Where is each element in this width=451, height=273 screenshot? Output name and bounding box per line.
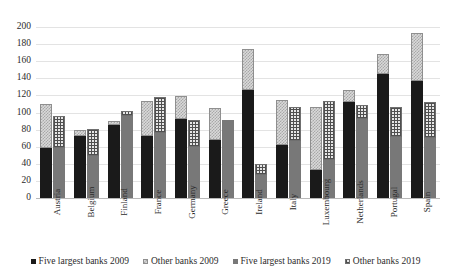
y-axis-labels: 020406080100120140160180200	[0, 27, 31, 198]
legend-label: Five largest banks 2019	[241, 256, 331, 266]
bar-spain-2009	[411, 33, 423, 198]
bar-segment-other-2009	[175, 96, 187, 119]
x-tick-belgium: Belgium	[70, 198, 104, 254]
bar-germany-2009	[175, 96, 187, 198]
y-tick-label: 120	[0, 90, 31, 100]
y-tick-label: 180	[0, 39, 31, 49]
legend-item-2[interactable]: Five largest banks 2019	[233, 256, 331, 266]
bar-france-2009	[141, 101, 153, 198]
bar-group-germany	[171, 27, 205, 198]
legend-item-3[interactable]: Other banks 2019	[345, 256, 421, 266]
bar-segment-other-2019	[390, 107, 402, 138]
bar-segment-five-largest-2009	[310, 170, 322, 198]
bar-chart: 020406080100120140160180200 AustriaBelgi…	[0, 0, 451, 273]
bar-greece-2009	[209, 108, 221, 198]
bar-segment-other-2019	[53, 116, 65, 148]
bar-segment-other-2009	[411, 33, 423, 81]
y-tick-label: 100	[0, 108, 31, 118]
bar-segment-other-2019	[255, 164, 267, 175]
x-tick-label: Spain	[423, 192, 432, 213]
bar-segment-five-largest-2019	[121, 116, 133, 198]
bar-segment-other-2019	[424, 102, 436, 138]
bar-belgium-2009	[74, 130, 86, 198]
bar-segment-other-2019	[188, 120, 200, 147]
bar-group-belgium	[70, 27, 104, 198]
x-tick-label: Ireland	[255, 189, 264, 214]
bar-spain-2019	[424, 102, 436, 198]
bar-netherlands-2009	[343, 90, 355, 198]
x-tick-ireland: Ireland	[238, 198, 272, 254]
legend-swatch-icon	[345, 259, 350, 264]
bar-segment-other-2009	[40, 104, 52, 148]
bar-group-greece	[204, 27, 238, 198]
bar-group-luxembourg	[305, 27, 339, 198]
x-tick-portugal: Portugal	[373, 198, 407, 254]
x-tick-label: Belgium	[87, 187, 96, 218]
bar-segment-five-largest-2019	[222, 120, 234, 198]
x-tick-netherlands: Netherlands	[339, 198, 373, 254]
bar-france-2019	[154, 97, 166, 198]
bar-group-ireland	[238, 27, 272, 198]
y-tick-label: 20	[0, 176, 31, 186]
bar-italy-2009	[276, 100, 288, 198]
bar-segment-five-largest-2009	[175, 119, 187, 198]
legend-swatch-icon	[31, 259, 36, 264]
x-tick-luxembourg: Luxembourg	[305, 198, 339, 254]
bar-austria-2009	[40, 104, 52, 198]
x-tick-italy: Italy	[272, 198, 306, 254]
bar-segment-five-largest-2009	[108, 125, 120, 198]
bar-segment-five-largest-2019	[424, 138, 436, 198]
y-tick-label: 40	[0, 159, 31, 169]
x-tick-france: France	[137, 198, 171, 254]
y-tick-label: 0	[0, 193, 31, 203]
bar-segment-other-2009	[242, 49, 254, 90]
bar-luxembourg-2009	[310, 107, 322, 198]
legend-swatch-icon	[143, 259, 148, 264]
x-tick-label: Austria	[53, 189, 62, 216]
x-tick-label: Greece	[221, 189, 230, 214]
x-tick-label: Italy	[289, 194, 298, 211]
x-tick-label: Luxembourg	[322, 179, 331, 225]
bar-portugal-2009	[377, 54, 389, 198]
y-tick-label: 80	[0, 125, 31, 135]
y-tick-label: 200	[0, 22, 31, 32]
bar-segment-other-2009	[343, 90, 355, 102]
bar-segment-five-largest-2009	[276, 145, 288, 198]
x-tick-spain: Spain	[406, 198, 440, 254]
bar-segment-five-largest-2009	[411, 81, 423, 198]
bar-segment-five-largest-2009	[377, 74, 389, 198]
x-tick-label: Netherlands	[356, 180, 365, 223]
x-tick-label: Germany	[188, 185, 197, 219]
bar-group-france	[137, 27, 171, 198]
x-axis-labels: AustriaBelgiumFinlandFranceGermanyGreece…	[36, 198, 440, 254]
bar-finland-2019	[121, 111, 133, 198]
x-tick-germany: Germany	[171, 198, 205, 254]
bar-segment-other-2009	[209, 108, 221, 140]
bar-segment-other-2009	[141, 101, 153, 135]
bar-ireland-2009	[242, 49, 254, 198]
legend-label: Other banks 2009	[151, 256, 219, 266]
bar-segment-other-2019	[154, 97, 166, 133]
bar-austria-2019	[53, 116, 65, 198]
bar-segment-five-largest-2009	[141, 136, 153, 198]
legend-item-1[interactable]: Other banks 2009	[143, 256, 219, 266]
bar-finland-2009	[108, 121, 120, 198]
bar-greece-2019	[222, 120, 234, 198]
x-tick-label: France	[154, 190, 163, 215]
bar-segment-five-largest-2009	[74, 136, 86, 198]
bar-group-finland	[103, 27, 137, 198]
x-tick-label: Finland	[120, 188, 129, 216]
bar-segment-five-largest-2009	[242, 90, 254, 198]
legend-swatch-icon	[233, 259, 238, 264]
chart-legend: Five largest banks 2009Other banks 2009F…	[0, 256, 451, 266]
legend-label: Five largest banks 2009	[39, 256, 129, 266]
bar-group-spain	[406, 27, 440, 198]
bar-segment-other-2009	[377, 54, 389, 74]
bar-group-italy	[272, 27, 306, 198]
bar-group-portugal	[373, 27, 407, 198]
legend-item-0[interactable]: Five largest banks 2009	[31, 256, 129, 266]
x-tick-austria: Austria	[36, 198, 70, 254]
y-tick-label: 140	[0, 73, 31, 83]
bar-segment-five-largest-2009	[40, 148, 52, 198]
bar-segment-other-2019	[356, 105, 368, 119]
